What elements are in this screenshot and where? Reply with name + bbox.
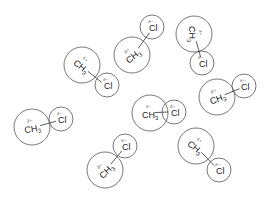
delta-minus-label: δ− [240, 78, 246, 83]
chloromethane-molecule: CH3δ+Clδ− [176, 16, 214, 75]
chloromethane-molecule: CH3δ+Clδ− [64, 47, 119, 97]
delta-plus-label: δ+ [26, 118, 32, 124]
chloromethane-molecule: CH3δ+Clδ− [132, 95, 186, 131]
delta-minus-label: δ− [57, 111, 63, 116]
methyl-label: CH3 [24, 122, 43, 136]
chlorine-label: Cl [122, 142, 131, 152]
bond-line [111, 151, 122, 164]
delta-minus-label: δ− [198, 55, 204, 60]
bond-line [225, 89, 240, 95]
bond-line [88, 71, 102, 82]
bond-line [40, 121, 56, 125]
methyl-label-group: CH3δ+ [186, 26, 203, 43]
delta-minus-label: δ− [148, 19, 154, 24]
delta-minus-label: δ− [121, 138, 127, 143]
chlorine-label: Cl [171, 108, 180, 118]
methyl-label-group: CH3δ+ [206, 85, 228, 107]
dipole-diagram: CH3δ+Clδ−CH3δ+Clδ−CH3δ+Clδ−CH3δ+Clδ−CH3δ… [0, 0, 267, 197]
delta-minus-label: δ− [170, 104, 176, 109]
delta-plus-label: δ+ [146, 104, 152, 109]
chloromethane-molecule: CH3δ+Clδ− [87, 134, 137, 188]
methyl-label-group: CH3δ+ [71, 53, 95, 77]
delta-plus-label: δ+ [198, 30, 203, 36]
methyl-label: CH3 [186, 26, 197, 43]
molecule-canvas: CH3δ+Clδ−CH3δ+Clδ−CH3δ+Clδ−CH3δ+Clδ−CH3δ… [0, 0, 267, 197]
chloromethane-molecule: CH3δ+Clδ− [199, 74, 256, 115]
delta-minus-label: δ− [215, 162, 221, 167]
delta-minus-label: δ− [103, 77, 109, 82]
chlorine-label: Cl [241, 82, 250, 92]
methyl-label-group: CH3δ+ [185, 134, 209, 158]
bond-line [155, 112, 168, 113]
chloromethane-molecule: CH3δ+Clδ− [178, 128, 231, 182]
chlorine-label: Cl [199, 59, 208, 69]
chlorine-label: Cl [104, 81, 113, 91]
chlorine-label: Cl [216, 166, 225, 176]
chloromethane-molecule: CH3δ+Clδ− [14, 107, 73, 145]
chlorine-label: Cl [58, 115, 67, 125]
methyl-label-group: CH3δ+ [23, 117, 43, 137]
methyl-label: CH3 [142, 110, 159, 121]
chlorine-label: Cl [149, 23, 158, 33]
chloromethane-molecule: CH3δ+Clδ− [114, 15, 164, 73]
